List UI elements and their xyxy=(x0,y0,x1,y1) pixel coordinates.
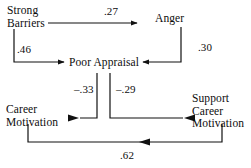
node-strong-barriers-line2: Barriers xyxy=(7,17,45,30)
coefficient-support-career: .62 xyxy=(120,150,134,161)
coefficient-barriers-anger: .27 xyxy=(104,6,118,17)
node-support-career-motivation-line3: Motivation xyxy=(192,117,244,130)
arrowhead-career-motivation-out xyxy=(68,115,79,122)
node-career-motivation: Career Motivation xyxy=(6,103,58,128)
path-line-career-appraisal xyxy=(80,73,97,118)
node-anger-line1: Anger xyxy=(155,12,184,25)
node-poor-appraisal-line1: Poor Appraisal xyxy=(69,56,139,69)
coefficient-barriers-appraisal: .46 xyxy=(17,44,31,55)
node-poor-appraisal: Poor Appraisal xyxy=(69,56,139,69)
arrowhead-bottom-062 xyxy=(139,139,150,146)
node-support-career-motivation-line1: Support xyxy=(192,92,244,105)
coefficient-career-appraisal: –.33 xyxy=(74,84,94,95)
node-anger: Anger xyxy=(155,12,184,25)
path-diagram: Strong Barriers Anger Poor Appraisal Car… xyxy=(0,0,251,168)
path-line-support-appraisal xyxy=(110,73,183,118)
coefficient-anger-appraisal: .30 xyxy=(198,42,212,53)
node-support-career-motivation-line2: Career xyxy=(192,105,244,118)
node-strong-barriers-line1: Strong xyxy=(7,4,45,17)
node-career-motivation-line1: Career xyxy=(6,103,58,116)
node-strong-barriers: Strong Barriers xyxy=(7,4,45,29)
node-support-career-motivation: Support Career Motivation xyxy=(192,92,244,130)
path-line-anger-appraisal xyxy=(143,27,181,62)
coefficient-support-appraisal: –.29 xyxy=(116,84,136,95)
node-career-motivation-line2: Motivation xyxy=(6,116,58,129)
